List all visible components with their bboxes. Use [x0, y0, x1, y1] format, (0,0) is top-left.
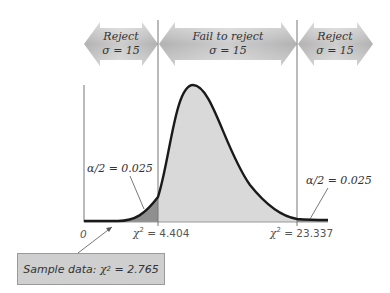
reject-right-line2: σ = 15: [306, 44, 364, 58]
fail-to-reject-label: Fail to reject σ = 15: [168, 30, 288, 58]
reject-left-line2: σ = 15: [92, 44, 150, 58]
reject-right-label: Reject σ = 15: [306, 30, 364, 58]
fail-to-reject-line1: Fail to reject: [168, 30, 288, 44]
sample-value: = 2.765: [111, 263, 159, 276]
left-critical-label: χ2 = 4.404: [133, 226, 189, 239]
reject-left-line1: Reject: [92, 30, 150, 44]
right-tail-annotation: α/2 = 0.025: [306, 174, 372, 187]
right-tail-leader: [310, 188, 328, 219]
left-critical-value: = 4.404: [144, 227, 190, 239]
sample-data-box: Sample data: χ2 = 2.765: [17, 253, 165, 285]
left-tail-annotation: α/2 = 0.025: [87, 162, 153, 175]
origin-label: 0: [80, 228, 87, 240]
left-tail-region: [120, 197, 158, 222]
left-tail-text: α/2 = 0.025: [87, 162, 153, 175]
sample-symbol: χ: [100, 263, 107, 276]
reject-right-line1: Reject: [306, 30, 364, 44]
right-tail-text: α/2 = 0.025: [306, 174, 372, 187]
reject-left-label: Reject σ = 15: [92, 30, 150, 58]
fail-to-reject-line2: σ = 15: [168, 44, 288, 58]
chi-square-test-diagram: Reject σ = 15 Fail to reject σ = 15 Reje…: [0, 0, 390, 293]
right-critical-value: = 23.337: [281, 227, 333, 239]
sample-prefix: Sample data:: [23, 263, 100, 276]
left-tail-leader: [130, 176, 144, 209]
right-critical-label: χ2 = 23.337: [270, 226, 333, 239]
